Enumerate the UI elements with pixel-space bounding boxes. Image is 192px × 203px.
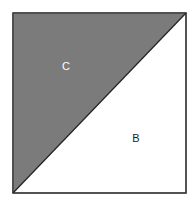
label-c: C <box>62 60 70 72</box>
label-b: B <box>132 132 139 144</box>
triangle-diagram: C B <box>0 0 192 203</box>
